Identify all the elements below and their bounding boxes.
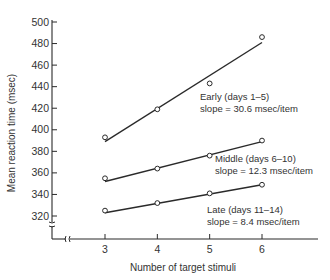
y-tick-label: 320 [31, 210, 49, 222]
data-point-circle-icon [155, 107, 160, 112]
x-axis-ticks: 3456 [102, 234, 265, 255]
series-annotations: Early (days 1–5)slope = 30.6 msec/itemMi… [200, 91, 313, 227]
y-tick-label: 480 [31, 37, 49, 49]
y-tick-label: 500 [31, 16, 49, 28]
x-axis-label: Number of target stimuli [130, 262, 236, 273]
data-point-circle-icon [260, 138, 265, 143]
series-slope-label: slope = 12.3 msec/item [215, 165, 313, 176]
data-point-circle-icon [260, 35, 265, 40]
series-slope-label: slope = 8.4 msec/item [207, 216, 300, 227]
series-label: Early (days 1–5) [200, 91, 269, 102]
data-point-circle-icon [260, 182, 265, 187]
data-point-circle-icon [207, 153, 212, 158]
series-label: Late (days 11–14) [207, 204, 283, 215]
data-point-circle-icon [155, 166, 160, 171]
series-slope-label: slope = 30.6 msec/item [200, 103, 298, 114]
y-tick-label: 340 [31, 188, 49, 200]
data-point-circle-icon [103, 208, 108, 213]
data-point-circle-icon [155, 201, 160, 206]
series-early [103, 35, 265, 142]
data-series [103, 35, 265, 213]
y-tick-label: 420 [31, 102, 49, 114]
reaction-time-chart: 320340360380400420440460480500 3456 Earl… [0, 0, 330, 280]
x-tick-label: 4 [154, 243, 160, 255]
data-point-circle-icon [207, 191, 212, 196]
y-tick-label: 360 [31, 166, 49, 178]
y-tick-label: 440 [31, 80, 49, 92]
x-tick-label: 6 [259, 243, 265, 255]
data-point-circle-icon [103, 135, 108, 140]
y-axis-label: Mean reaction time (msec) [6, 74, 17, 192]
y-tick-label: 460 [31, 59, 49, 71]
y-tick-label: 380 [31, 145, 49, 157]
series-label: Middle (days 6–10) [215, 153, 296, 164]
data-point-circle-icon [103, 176, 108, 181]
x-tick-label: 3 [102, 243, 108, 255]
data-point-circle-icon [207, 81, 212, 86]
x-tick-label: 5 [207, 243, 213, 255]
y-axis-ticks: 320340360380400420440460480500 [31, 16, 57, 222]
y-tick-label: 400 [31, 123, 49, 135]
